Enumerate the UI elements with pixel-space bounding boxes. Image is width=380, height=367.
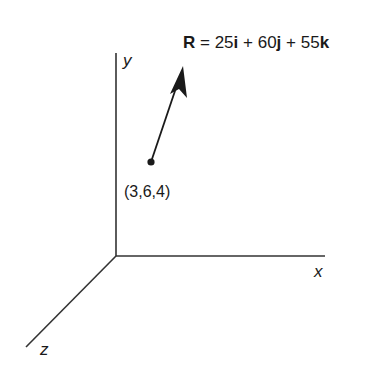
equals-sign: = bbox=[195, 33, 214, 52]
vector-arrow bbox=[151, 82, 178, 162]
plus-2: + bbox=[281, 33, 300, 52]
z-axis bbox=[26, 256, 116, 347]
vector-diagram: y x z (3,6,4) R = 25i + 60j + 55k bbox=[0, 0, 380, 367]
vector-equation: R = 25i + 60j + 55k bbox=[183, 33, 330, 52]
x-axis-label: x bbox=[313, 262, 323, 281]
coef-i: 25 bbox=[215, 33, 234, 52]
z-axis-label: z bbox=[39, 340, 49, 359]
arrowhead-icon bbox=[170, 66, 187, 98]
coef-j: 60 bbox=[258, 33, 277, 52]
unit-k: k bbox=[320, 33, 330, 52]
start-point-dot bbox=[147, 158, 154, 165]
coef-k: 55 bbox=[301, 33, 320, 52]
point-label: (3,6,4) bbox=[124, 183, 170, 200]
vector-name: R bbox=[183, 33, 195, 52]
plus-1: + bbox=[238, 33, 257, 52]
y-axis-label: y bbox=[122, 51, 133, 70]
